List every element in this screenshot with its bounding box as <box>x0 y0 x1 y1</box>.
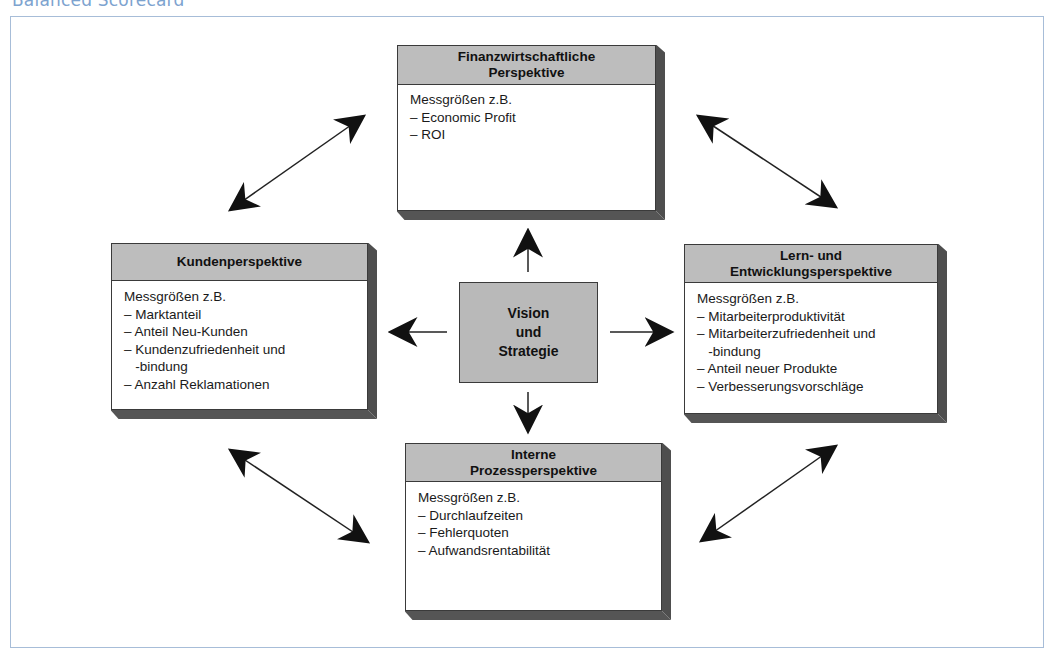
measure-item: – Fehlerquoten <box>418 524 649 542</box>
process-perspective-title: Interne Prozessperspektive <box>406 444 661 482</box>
measure-item: -bindung <box>697 343 925 361</box>
box-3d-side <box>938 244 947 424</box>
measure-item: – Mitarbeiterproduktivität <box>697 308 925 326</box>
vision-strategy-box: Vision und Strategie <box>459 282 598 383</box>
finance-perspective-box: Finanzwirtschaftliche Perspektive Messgr… <box>397 45 656 211</box>
measures-intro: Messgrößen z.B. <box>124 288 355 306</box>
measure-item: – Marktanteil <box>124 306 355 324</box>
measure-item: – Economic Profit <box>410 109 643 127</box>
box-3d-bottom <box>397 211 666 220</box>
measure-item: – Anteil neuer Produkte <box>697 360 925 378</box>
box-3d-bottom <box>111 410 378 419</box>
measure-item: – Durchlaufzeiten <box>418 507 649 525</box>
box-3d-bottom <box>684 414 948 423</box>
customer-measures: Messgrößen z.B. – Marktanteil – Anteil N… <box>112 281 367 399</box>
box-3d-bottom <box>405 611 672 620</box>
arrow-process-learning <box>701 446 836 541</box>
box-3d-side <box>662 443 671 621</box>
process-perspective-box: Interne Prozessperspektive Messgrößen z.… <box>405 443 662 611</box>
finance-perspective-title: Finanzwirtschaftliche Perspektive <box>398 46 655 85</box>
learning-perspective-title: Lern- und Entwicklungsperspektive <box>685 245 937 283</box>
box-3d-side <box>368 243 377 420</box>
box-3d-side <box>656 45 665 221</box>
finance-measures: Messgrößen z.B. – Economic Profit – ROI <box>398 85 655 150</box>
arrow-customer-process <box>230 450 368 542</box>
customer-perspective-title: Kundenperspektive <box>112 244 367 281</box>
learning-measures: Messgrößen z.B. – Mitarbeiterproduktivit… <box>685 283 937 401</box>
measures-intro: Messgrößen z.B. <box>418 489 649 507</box>
measure-item: – ROI <box>410 126 643 144</box>
measure-item: – Anteil Neu-Kunden <box>124 323 355 341</box>
process-measures: Messgrößen z.B. – Durchlaufzeiten – Fehl… <box>406 482 661 565</box>
measure-item: -bindung <box>124 358 355 376</box>
arrow-finance-learning <box>698 116 836 207</box>
measure-item: – Kundenzufriedenheit und <box>124 341 355 359</box>
measures-intro: Messgrößen z.B. <box>410 91 643 109</box>
measure-item: – Aufwandsrentabilität <box>418 542 649 560</box>
measure-item: – Mitarbeiterzufriedenheit und <box>697 325 925 343</box>
customer-perspective-box: Kundenperspektive Messgrößen z.B. – Mark… <box>111 243 368 410</box>
measure-item: – Anzahl Reklamationen <box>124 376 355 394</box>
learning-perspective-box: Lern- und Entwicklungsperspektive Messgr… <box>684 244 938 414</box>
measure-item: – Verbesserungsvorschläge <box>697 378 925 396</box>
arrow-customer-finance <box>230 116 364 210</box>
measures-intro: Messgrößen z.B. <box>697 290 925 308</box>
